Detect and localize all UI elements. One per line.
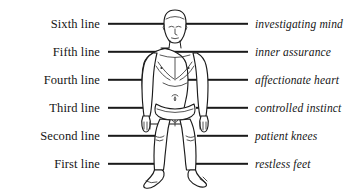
body-lines-diagram: Sixth lineinvestigating mindFifth linein… [0,0,364,194]
standing-human-figure [0,0,364,194]
